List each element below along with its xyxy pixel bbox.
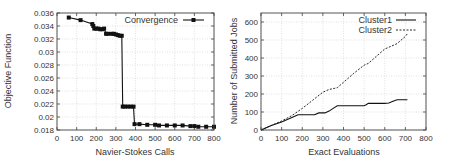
cluster1-series-line	[261, 100, 407, 130]
submitted-jobs-chart: 0100200300400500600 01002003004005006007…	[0, 0, 449, 167]
x-tick-label: 800	[419, 134, 433, 143]
x-tick-label: 300	[316, 134, 330, 143]
y-ticks: 0100200300400500600	[245, 18, 426, 135]
y-axis-label: Number of Submitted Jobs	[229, 17, 239, 124]
legend-label-cluster1: Cluster1	[358, 15, 392, 25]
x-axis-label: Exact Evaluations	[308, 147, 380, 157]
y-tick-label: 100	[245, 108, 259, 117]
y-tick-label: 500	[245, 36, 259, 45]
x-ticks: 0100200300400500600700800	[259, 13, 433, 143]
x-tick-label: 0	[259, 134, 264, 143]
y-tick-label: 600	[245, 18, 259, 27]
y-tick-label: 300	[245, 72, 259, 81]
x-tick-label: 500	[357, 134, 371, 143]
x-tick-label: 400	[337, 134, 351, 143]
y-tick-label: 400	[245, 54, 259, 63]
x-tick-label: 600	[378, 134, 392, 143]
y-tick-label: 200	[245, 90, 259, 99]
x-tick-label: 200	[296, 134, 310, 143]
cluster2-series-line	[261, 34, 407, 130]
x-tick-label: 100	[275, 134, 289, 143]
legend-label-cluster2: Cluster2	[358, 25, 392, 35]
grid	[261, 13, 426, 130]
legend: Cluster1 Cluster2	[358, 15, 416, 35]
x-tick-label: 700	[399, 134, 413, 143]
